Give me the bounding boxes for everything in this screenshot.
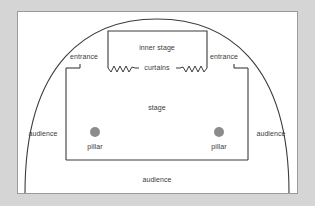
label-audience-bottom: audience [142, 176, 171, 183]
label-inner-stage: inner stage [139, 44, 175, 51]
label-curtains: curtains [144, 64, 169, 71]
curtain-zigzag-right [180, 66, 207, 72]
pillar-left-icon [90, 127, 100, 137]
label-audience-right: audience [256, 130, 285, 137]
label-pillar-right: pillar [211, 143, 226, 150]
label-audience-left: audience [28, 130, 57, 137]
pillar-right-icon [214, 127, 224, 137]
diagram-root: inner stage curtains stage entrance entr… [0, 0, 315, 206]
label-entrance-right: entrance [210, 53, 238, 60]
label-entrance-left: entrance [70, 53, 98, 60]
label-stage: stage [148, 104, 166, 111]
curtain-zigzag-left [108, 66, 135, 72]
label-pillar-left: pillar [87, 143, 102, 150]
